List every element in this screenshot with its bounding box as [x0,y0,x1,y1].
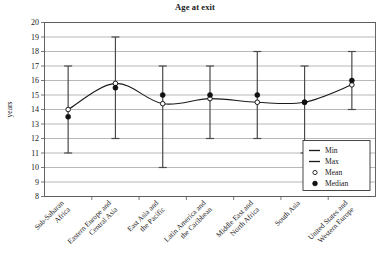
mean-marker [66,107,71,112]
x-category-label: Sub-SaharanAfrica [32,198,72,238]
legend: MinMaxMeanMedian [303,141,370,191]
x-category-label: Middle East andNorth Africa [214,198,261,245]
y-tick-label: 13 [31,120,39,129]
median-marker [160,93,165,98]
median-marker [302,100,307,105]
legend-item-label: Max [325,157,339,166]
y-tick-label: 11 [31,149,39,158]
x-category-label: Latin America andthe Caribbean [162,198,214,250]
y-axis-ticks-group [41,23,45,197]
y-axis-title-group: years [5,102,14,118]
y-tick-label: 12 [31,134,39,143]
median-marker [208,93,213,98]
y-tick-label: 19 [31,33,39,42]
median-marker [349,78,354,83]
legend-item-label: Median [325,179,348,188]
x-category-label: United States andWestern Europe [306,198,356,248]
y-tick-label: 20 [31,18,39,27]
y-tick-label: 18 [31,47,39,56]
median-marker [66,114,71,119]
y-axis-title: years [5,102,14,118]
x-category-label: East Asia andthe Pacific [125,198,167,240]
y-tick-label: 15 [31,91,39,100]
x-category-label: Eastern Europe andCentral Asia [66,198,120,252]
mean-marker [255,100,260,105]
x-axis-category-labels-group: Sub-SaharanAfricaEastern Europe andCentr… [32,198,356,252]
x-axis-ticks-group [92,197,328,201]
legend-item-label: Mean [325,168,342,177]
y-tick-label: 8 [35,192,39,201]
y-tick-label: 16 [31,76,39,85]
y-tick-label: 9 [35,178,39,187]
legend-filled-circle-icon [313,181,318,186]
median-marker [113,85,118,90]
chart-plot: 891011121314151617181920 Sub-SaharanAfri… [0,0,390,269]
y-tick-label: 10 [31,163,39,172]
y-tick-label: 17 [31,62,39,71]
y-tick-label: 14 [31,105,39,114]
x-category-label: South Asia [273,198,303,228]
x-category-label-line: South Asia [273,198,303,228]
legend-item-label: Min [325,146,338,155]
median-marker [255,93,260,98]
y-axis-tick-labels-group: 891011121314151617181920 [31,18,39,201]
legend-open-circle-icon [313,170,317,174]
mean-marker [160,101,165,106]
chart-container: Age at exit 891011121314151617181920 Sub… [0,0,390,269]
